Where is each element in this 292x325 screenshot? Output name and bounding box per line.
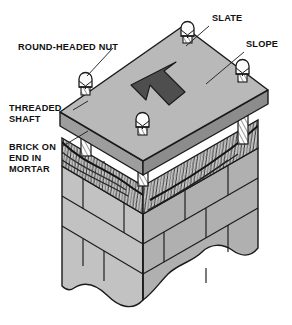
label-slate: SLATE	[212, 13, 242, 23]
technical-illustration: SLATE SLOPE ROUND-HEADED NUT THREADED SH…	[0, 0, 292, 325]
label-slope: SLOPE	[246, 39, 278, 49]
round-headed-nut-front	[136, 113, 149, 129]
round-headed-nut-back	[181, 22, 194, 38]
round-headed-nut-left	[79, 73, 92, 90]
round-headed-nut-right	[236, 60, 249, 76]
label-round-headed-nut: ROUND-HEADED NUT	[18, 42, 118, 52]
